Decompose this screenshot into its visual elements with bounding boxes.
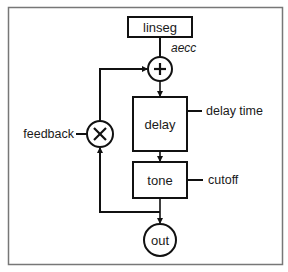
linseg-label: linseg bbox=[143, 20, 177, 35]
tone-block: tone bbox=[133, 162, 187, 198]
out-node: out bbox=[144, 224, 176, 256]
delay-time-label: delay time bbox=[206, 104, 263, 118]
multiplier-node bbox=[87, 121, 113, 147]
cutoff-label: cutoff bbox=[208, 173, 239, 187]
tone-label: tone bbox=[147, 173, 172, 188]
delay-block: delay bbox=[133, 97, 187, 151]
feedback-label: feedback bbox=[23, 127, 74, 141]
out-label: out bbox=[151, 233, 169, 248]
adder-node bbox=[148, 57, 172, 81]
signal-flow-diagram: linseg aecc delay delay time tone cutoff… bbox=[0, 0, 288, 272]
aecc-label: aecc bbox=[171, 41, 196, 55]
delay-label: delay bbox=[144, 117, 176, 132]
linseg-block: linseg bbox=[128, 17, 192, 37]
